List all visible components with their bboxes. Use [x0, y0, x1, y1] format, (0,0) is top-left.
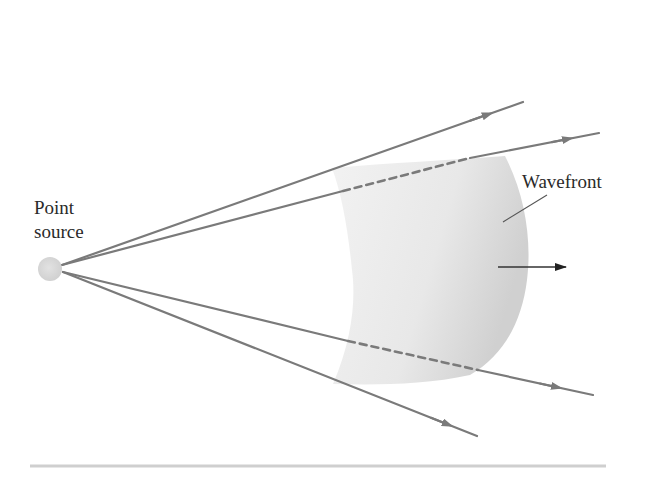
ray-upper-inner-arrow-seg — [552, 139, 568, 142]
wavefront-surface — [332, 156, 529, 384]
point-source-label-line1: Point — [34, 197, 75, 218]
point-source-dot — [38, 257, 62, 281]
wavefront-label: Wavefront — [522, 171, 602, 192]
ray-lower-inner-arrow-seg — [540, 384, 557, 388]
wavefront-diagram: Point source Wavefront — [0, 0, 646, 481]
ray-upper-inner-solid-end — [470, 133, 599, 158]
ray-upper-inner-solid-start — [62, 191, 343, 265]
ray-lower-inner-solid-start — [63, 272, 348, 341]
point-source-label-line2: source — [34, 221, 84, 242]
ray-upper-outer-arrow-seg — [470, 114, 488, 120]
ray-lower-outer-arrow-seg — [431, 418, 448, 425]
ray-lower-inner-solid-end — [478, 370, 593, 395]
